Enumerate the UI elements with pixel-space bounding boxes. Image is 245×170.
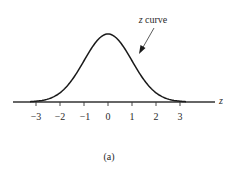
x-axis-tick-labels: −3 −2 −1 0 1 2 3 bbox=[31, 111, 183, 122]
tick-label-2: 2 bbox=[154, 111, 159, 122]
tick-label-neg3: −3 bbox=[31, 111, 42, 122]
tick-label-neg1: −1 bbox=[80, 111, 91, 122]
normal-curve-plot: −3 −2 −1 0 1 2 3 z z curve (a) bbox=[0, 0, 245, 170]
curve-annotation-label: z curve bbox=[138, 14, 168, 25]
x-axis-label: z bbox=[218, 95, 223, 106]
chart-figure: −3 −2 −1 0 1 2 3 z z curve (a) bbox=[0, 0, 245, 170]
annotation-rest: curve bbox=[143, 14, 168, 25]
tick-label-1: 1 bbox=[130, 111, 135, 122]
annotation-arrow-icon bbox=[139, 45, 146, 54]
z-curve-line bbox=[30, 34, 186, 102]
tick-label-0: 0 bbox=[106, 111, 111, 122]
tick-label-neg2: −2 bbox=[55, 111, 66, 122]
tick-label-3: 3 bbox=[178, 111, 183, 122]
annotation-arrow-shaft bbox=[142, 28, 154, 49]
figure-caption: (a) bbox=[103, 151, 114, 163]
